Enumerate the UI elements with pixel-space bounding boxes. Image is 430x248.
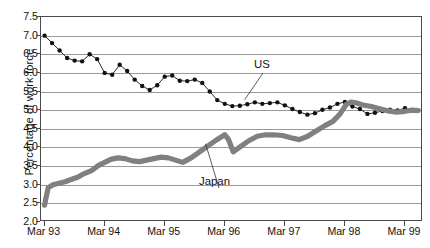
data-point-us [42, 33, 46, 37]
data-point-us [290, 107, 294, 111]
data-point-us [283, 103, 287, 107]
data-point-us [200, 81, 204, 85]
data-point-us [260, 102, 264, 106]
data-point-us [80, 59, 84, 63]
data-point-us [275, 100, 279, 104]
data-point-us [155, 83, 159, 87]
series-line-japan [45, 102, 419, 205]
data-point-us [140, 84, 144, 88]
data-point-us [125, 69, 129, 73]
data-point-us [72, 58, 76, 62]
data-point-us [298, 110, 302, 114]
data-point-us [193, 77, 197, 81]
y-tick-label: 6.5 [12, 48, 38, 59]
data-point-us [208, 89, 212, 93]
data-point-us [102, 71, 106, 75]
y-tick-label: 5.5 [12, 86, 38, 97]
x-tick-label: Mar 99 [375, 226, 430, 237]
data-point-us [313, 111, 317, 115]
x-tick-label: Mar 93 [15, 226, 73, 237]
y-tick-label: 4.5 [12, 123, 38, 134]
data-point-us [163, 74, 167, 78]
y-tick-label: 7.5 [12, 11, 38, 22]
x-tick-label: Mar 95 [135, 226, 193, 237]
data-point-us [215, 98, 219, 102]
data-point-us [268, 101, 272, 105]
data-point-us [328, 105, 332, 109]
y-tick-label: 3.5 [12, 160, 38, 171]
series-layer [41, 17, 423, 222]
y-tick-label: 7.0 [12, 30, 38, 41]
series-label-japan: Japan [199, 176, 230, 187]
data-point-us [245, 102, 249, 106]
data-point-us [358, 107, 362, 111]
data-point-us [110, 73, 114, 77]
data-point-us [95, 57, 99, 61]
data-point-us [230, 104, 234, 108]
data-point-us [373, 111, 377, 115]
data-point-us [133, 77, 137, 81]
data-point-us [238, 104, 242, 108]
unemployment-rate-chart: Percentage of work force 7.57.06.56.05.5… [0, 0, 430, 248]
series-label-us: US [254, 59, 270, 70]
leader-line-us [245, 73, 263, 100]
y-tick-label: 6.0 [12, 67, 38, 78]
data-point-us [253, 100, 257, 104]
y-tick-label: 2.5 [12, 197, 38, 208]
data-point-us [305, 112, 309, 116]
data-point-us [148, 88, 152, 92]
data-point-us [170, 73, 174, 77]
x-tick-label: Mar 98 [315, 226, 373, 237]
y-tick-mark [36, 221, 40, 222]
data-point-us [57, 48, 61, 52]
x-tick-label: Mar 97 [255, 226, 313, 237]
y-tick-label: 4.0 [12, 141, 38, 152]
x-tick-label: Mar 96 [195, 226, 253, 237]
data-point-us [87, 52, 91, 56]
x-tick-label: Mar 94 [75, 226, 133, 237]
y-tick-label: 3.0 [12, 179, 38, 190]
y-tick-label: 5.0 [12, 104, 38, 115]
data-point-us [335, 102, 339, 106]
data-point-us [365, 112, 369, 116]
data-point-us [223, 102, 227, 106]
data-point-us [178, 79, 182, 83]
data-point-us [185, 79, 189, 83]
plot-area [40, 16, 422, 221]
data-point-us [65, 56, 69, 60]
data-point-us [50, 41, 54, 45]
data-point-us [117, 63, 121, 67]
data-point-us [320, 108, 324, 112]
